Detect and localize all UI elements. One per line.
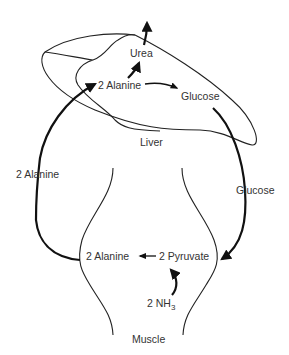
liver-label: Liver <box>140 136 163 148</box>
urea-label: Urea <box>130 47 153 59</box>
ammonia-label: 2 NH3 <box>147 297 176 312</box>
liver-glucose-label: Glucose <box>181 90 220 102</box>
liver-alanine-label: 2 Alanine <box>98 79 141 91</box>
glucose-alanine-cycle-diagram: Urea 2 Alanine Glucose Liver 2 Alanine G… <box>0 0 289 355</box>
muscle-label: Muscle <box>132 333 165 345</box>
arrow-urea-excreted <box>144 23 147 45</box>
pyruvate-label: 2 Pyruvate <box>159 250 209 262</box>
blood-glucose-label: Glucose <box>236 184 275 196</box>
arrow-alanine-to-glucose <box>145 83 177 88</box>
arrow-alanine-to-urea <box>128 63 139 78</box>
liver-inner-top <box>93 35 135 60</box>
muscle-alanine-label: 2 Alanine <box>86 250 129 262</box>
blood-alanine-label: 2 Alanine <box>16 168 59 180</box>
arrow-ammonia-to-pyruvate <box>171 270 176 295</box>
